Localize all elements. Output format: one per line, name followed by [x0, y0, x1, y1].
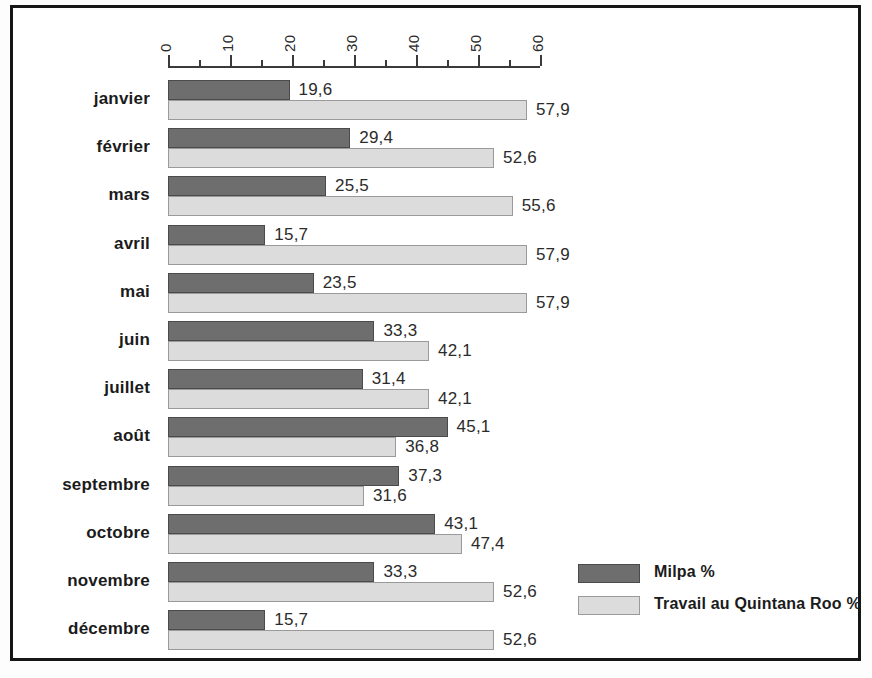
bar-value-label: 31,4: [363, 369, 406, 389]
bar-value-label: 52,6: [494, 582, 537, 602]
bar-group: 15,7: [168, 610, 540, 630]
bar-value-label: 57,9: [527, 293, 570, 313]
bar-travail-quintana-roo: [168, 437, 396, 457]
chart-row: octobre43,147,4: [13, 514, 864, 558]
category-label: août: [8, 426, 158, 446]
bar-value-label: 29,4: [350, 128, 393, 148]
bar-group: 25,5: [168, 176, 540, 196]
bar-value-label: 15,7: [265, 610, 308, 630]
bar-group: 42,1: [168, 341, 540, 361]
bar-milpa: [168, 128, 350, 148]
category-label: octobre: [8, 523, 158, 543]
bar-value-label: 33,3: [374, 562, 417, 582]
legend-swatch-milpa: [578, 564, 640, 583]
category-label: novembre: [8, 571, 158, 591]
bar-travail-quintana-roo: [168, 486, 364, 506]
bar-milpa: [168, 610, 265, 630]
bar-value-label: 57,9: [527, 245, 570, 265]
category-label: mai: [8, 282, 158, 302]
chart-page: 0102030405060 janvier19,657,9février29,4…: [0, 0, 872, 678]
bar-group: 45,1: [168, 417, 540, 437]
legend-label-travail-quintana-roo: Travail au Quintana Roo %: [654, 595, 861, 613]
bar-value-label: 42,1: [429, 341, 472, 361]
bar-group: 55,6: [168, 196, 540, 216]
bar-milpa: [168, 80, 290, 100]
category-label: janvier: [8, 89, 158, 109]
bar-travail-quintana-roo: [168, 245, 527, 265]
bar-group: 47,4: [168, 534, 540, 554]
bar-milpa: [168, 562, 374, 582]
category-label: février: [8, 137, 158, 157]
bar-group: 52,6: [168, 582, 540, 602]
bar-travail-quintana-roo: [168, 582, 494, 602]
category-label: septembre: [8, 475, 158, 495]
chart-row: mai23,557,9: [13, 273, 864, 317]
chart-row: mars25,555,6: [13, 176, 864, 220]
bar-value-label: 19,6: [290, 80, 333, 100]
chart-row: juillet31,442,1: [13, 369, 864, 413]
bar-milpa: [168, 466, 399, 486]
bar-milpa: [168, 273, 314, 293]
bar-value-label: 25,5: [326, 176, 369, 196]
legend: Milpa % Travail au Quintana Roo %: [578, 560, 872, 624]
bar-group: 37,3: [168, 466, 540, 486]
bar-group: 23,5: [168, 273, 540, 293]
bar-milpa: [168, 369, 363, 389]
bar-group: 19,6: [168, 80, 540, 100]
chart-row: avril15,757,9: [13, 225, 864, 269]
bar-travail-quintana-roo: [168, 341, 429, 361]
bar-group: 57,9: [168, 245, 540, 265]
bar-travail-quintana-roo: [168, 293, 527, 313]
bar-travail-quintana-roo: [168, 148, 494, 168]
category-label: mars: [8, 185, 158, 205]
chart-row: février29,452,6: [13, 128, 864, 172]
bar-value-label: 55,6: [513, 196, 556, 216]
category-label: juillet: [8, 378, 158, 398]
bar-value-label: 45,1: [448, 417, 491, 437]
category-label: décembre: [8, 619, 158, 639]
category-label: avril: [8, 234, 158, 254]
bar-travail-quintana-roo: [168, 100, 527, 120]
bar-group: 52,6: [168, 148, 540, 168]
bar-value-label: 52,6: [494, 630, 537, 650]
bar-value-label: 52,6: [494, 148, 537, 168]
bar-value-label: 37,3: [399, 466, 442, 486]
bar-milpa: [168, 514, 435, 534]
bar-milpa: [168, 225, 265, 245]
bar-group: 52,6: [168, 630, 540, 650]
chart-row: août45,136,8: [13, 417, 864, 461]
bar-milpa: [168, 176, 326, 196]
bar-group: 33,3: [168, 562, 540, 582]
bar-value-label: 42,1: [429, 389, 472, 409]
bar-group: 29,4: [168, 128, 540, 148]
bar-value-label: 36,8: [396, 437, 439, 457]
bar-group: 57,9: [168, 293, 540, 313]
category-label: juin: [8, 330, 158, 350]
chart-row: janvier19,657,9: [13, 80, 864, 124]
bar-travail-quintana-roo: [168, 534, 462, 554]
bar-group: 43,1: [168, 514, 540, 534]
bar-group: 33,3: [168, 321, 540, 341]
bar-value-label: 43,1: [435, 514, 478, 534]
legend-item-milpa: Milpa %: [578, 560, 872, 592]
bar-value-label: 23,5: [314, 273, 357, 293]
bar-travail-quintana-roo: [168, 630, 494, 650]
bar-value-label: 33,3: [374, 321, 417, 341]
bar-group: 31,6: [168, 486, 540, 506]
chart-row: juin33,342,1: [13, 321, 864, 365]
bar-milpa: [168, 417, 448, 437]
bar-value-label: 15,7: [265, 225, 308, 245]
bar-group: 36,8: [168, 437, 540, 457]
bar-travail-quintana-roo: [168, 389, 429, 409]
bar-value-label: 31,6: [364, 486, 407, 506]
bar-value-label: 57,9: [527, 100, 570, 120]
legend-item-travail-quintana-roo: Travail au Quintana Roo %: [578, 592, 872, 624]
chart-row: septembre37,331,6: [13, 466, 864, 510]
legend-label-milpa: Milpa %: [654, 563, 715, 581]
chart-frame: 0102030405060 janvier19,657,9février29,4…: [10, 5, 861, 661]
bar-value-label: 47,4: [462, 534, 505, 554]
bar-travail-quintana-roo: [168, 196, 513, 216]
bar-group: 42,1: [168, 389, 540, 409]
bar-group: 57,9: [168, 100, 540, 120]
bar-group: 15,7: [168, 225, 540, 245]
